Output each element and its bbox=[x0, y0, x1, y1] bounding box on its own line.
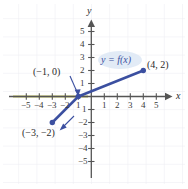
vertex-dot-origin-left bbox=[76, 94, 81, 99]
point-label-minus1-0: (−1, 0) bbox=[33, 67, 60, 77]
y-tick-label--3: −3 bbox=[78, 131, 88, 140]
x-tick-label-5: 5 bbox=[154, 101, 159, 110]
x-tick-label--5: −5 bbox=[21, 101, 31, 110]
x-tick-label--1: 1 bbox=[76, 101, 81, 110]
y-tick-label--5: −5 bbox=[78, 157, 88, 166]
y-tick-label-4: 4 bbox=[80, 40, 85, 49]
function-label: y = f(x) bbox=[101, 55, 131, 65]
y-tick-label-2: 2 bbox=[80, 66, 85, 75]
y-tick-label-1: 1 bbox=[80, 79, 85, 88]
y-tick-label-5: 5 bbox=[80, 27, 85, 36]
graph-figure: −5 −4 −3 −2 1 1 2 3 4 5 5 4 3 2 1 1 −2 −… bbox=[0, 0, 188, 189]
point-label-minus3-minus2: (−3, −2) bbox=[22, 128, 55, 138]
y-tick-label--1: 1 bbox=[82, 105, 87, 114]
x-tick-label--2: −2 bbox=[60, 101, 70, 110]
x-tick-label-4: 4 bbox=[141, 101, 146, 110]
x-tick-label--3: −3 bbox=[47, 101, 57, 110]
y-axis bbox=[88, 20, 95, 179]
y-axis-name: y bbox=[87, 6, 91, 16]
x-tick-label-1: 1 bbox=[102, 101, 107, 110]
y-tick-label-3: 3 bbox=[80, 53, 85, 62]
x-tick-label--4: −4 bbox=[34, 101, 44, 110]
endpoint-dot-left bbox=[50, 120, 55, 125]
y-tick-label--4: −4 bbox=[78, 144, 88, 153]
plot-area bbox=[0, 0, 188, 189]
x-tick-label-2: 2 bbox=[115, 101, 120, 110]
x-axis-name: x bbox=[176, 91, 180, 101]
x-tick-label-3: 3 bbox=[128, 101, 133, 110]
point-label-4-2: (4, 2) bbox=[147, 60, 169, 70]
endpoint-dot-right bbox=[141, 68, 146, 73]
y-tick-label--2: −2 bbox=[78, 118, 88, 127]
